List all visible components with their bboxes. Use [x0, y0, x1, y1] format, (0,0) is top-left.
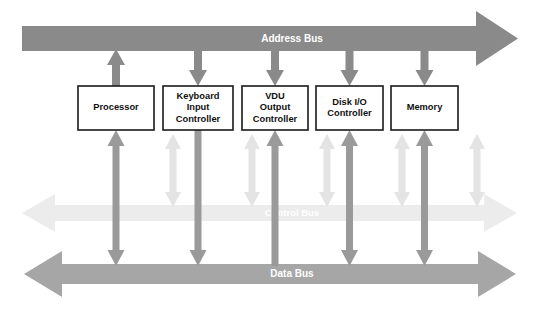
data-connectors-group [108, 130, 434, 266]
control-connector-disk-io-controller [394, 134, 410, 207]
data-bus-group: Data Bus [24, 251, 516, 297]
unit-label-memory: Memory [407, 102, 443, 112]
unit-disk-io-controller[interactable]: Disk I/OController [316, 86, 383, 130]
data-connector-keyboard-input-controller [190, 130, 207, 266]
unit-label-disk-io-controller: Controller [327, 108, 372, 118]
control-connector-processor [165, 134, 181, 207]
address-bus-group: Address Bus [22, 11, 518, 66]
unit-label-keyboard-input-controller: Keyboard [177, 91, 220, 101]
control-connector-keyboard-input-controller [244, 134, 260, 207]
control-bus-group: Control Bus [22, 194, 517, 232]
address-connectors-group [107, 49, 434, 86]
address-connector-processor [107, 49, 125, 86]
unit-label-vdu-output-controller: VDU [265, 91, 285, 101]
address-connector-memory [416, 49, 434, 86]
unit-boxes-group: ProcessorKeyboardInputControllerVDUOutpu… [78, 86, 458, 130]
address-bus-label: Address Bus [261, 33, 323, 44]
unit-label-processor: Processor [93, 102, 139, 112]
unit-label-disk-io-controller: Disk I/O [332, 97, 367, 107]
unit-processor[interactable]: Processor [78, 86, 154, 130]
unit-keyboard-input-controller[interactable]: KeyboardInputController [163, 86, 233, 130]
unit-label-vdu-output-controller: Controller [253, 114, 298, 124]
diagram-canvas: Control Bus Address Bus Data Bus Process… [0, 0, 539, 315]
data-connector-processor [108, 130, 125, 266]
control-connector-vdu-output-controller [319, 134, 335, 207]
unit-memory[interactable]: Memory [391, 86, 458, 130]
address-connector-disk-io-controller [341, 49, 359, 86]
data-connector-memory [416, 130, 433, 266]
address-connector-keyboard-input-controller [189, 49, 207, 86]
unit-label-vdu-output-controller: Output [260, 102, 290, 112]
unit-label-keyboard-input-controller: Controller [176, 114, 221, 124]
data-bus-label: Data Bus [270, 268, 314, 279]
control-connectors-group [165, 134, 485, 207]
unit-label-keyboard-input-controller: Input [187, 102, 210, 112]
control-connector-memory [469, 134, 485, 207]
unit-vdu-output-controller[interactable]: VDUOutputController [242, 86, 308, 130]
bus-architecture-diagram: Control Bus Address Bus Data Bus Process… [0, 0, 539, 315]
address-connector-vdu-output-controller [266, 49, 284, 86]
data-connector-vdu-output-controller [267, 130, 284, 266]
data-connector-disk-io-controller [341, 130, 358, 266]
